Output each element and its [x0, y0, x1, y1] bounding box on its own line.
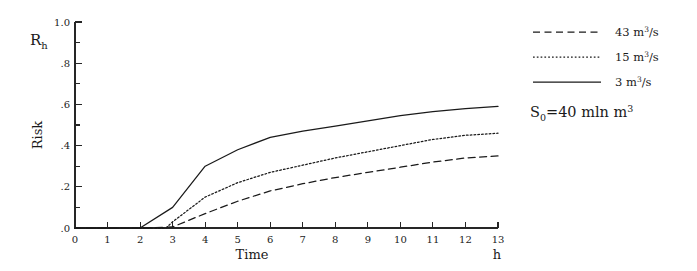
y-tick-label: .2 [60, 181, 70, 192]
y-axis-title: Risk [30, 121, 45, 150]
x-tick-label: 4 [202, 234, 208, 245]
x-axis-unit-label: h [493, 247, 502, 262]
legend: 43 m3/s15 m3/s3 m3/s [533, 25, 659, 89]
series-curve-dashed [75, 156, 498, 228]
x-axis-title: Time [236, 247, 269, 262]
data-curves [75, 106, 498, 228]
x-tick-label: 8 [332, 234, 338, 245]
axes [75, 22, 498, 228]
x-tick-label: 1 [104, 234, 110, 245]
risk-vs-time-chart: 012345678910111213 .0.2.4.6.81.0 Time h … [0, 0, 697, 271]
x-axis-tick-labels: 012345678910111213 [72, 234, 505, 245]
x-tick-label: 3 [169, 234, 175, 245]
legend-label: 43 m3/s [615, 25, 659, 39]
series-curve-solid [75, 106, 498, 228]
legend-label: 3 m3/s [615, 75, 652, 89]
legend-label: 15 m3/s [615, 50, 659, 64]
y-tick-label: .6 [60, 99, 70, 110]
annotation-initial-storage: S0=40 mln m3 [530, 103, 633, 123]
series-curve-dotted [75, 133, 498, 228]
x-tick-label: 2 [137, 234, 143, 245]
y-tick-label: 1.0 [54, 17, 70, 28]
y-tick-label: .8 [60, 58, 70, 69]
x-tick-label: 11 [427, 234, 440, 245]
risk-symbol-label: Rh [30, 31, 48, 51]
y-tick-label: .0 [60, 223, 70, 234]
x-tick-label: 0 [72, 234, 78, 245]
figure-container: 012345678910111213 .0.2.4.6.81.0 Time h … [0, 0, 697, 271]
y-tick-label: .4 [60, 140, 70, 151]
x-tick-label: 7 [300, 234, 306, 245]
x-tick-label: 12 [459, 234, 472, 245]
y-axis-tick-labels: .0.2.4.6.81.0 [54, 17, 70, 234]
x-tick-label: 9 [365, 234, 371, 245]
x-tick-label: 13 [492, 234, 505, 245]
x-tick-label: 5 [235, 234, 241, 245]
x-tick-label: 10 [394, 234, 407, 245]
x-tick-label: 6 [267, 234, 273, 245]
